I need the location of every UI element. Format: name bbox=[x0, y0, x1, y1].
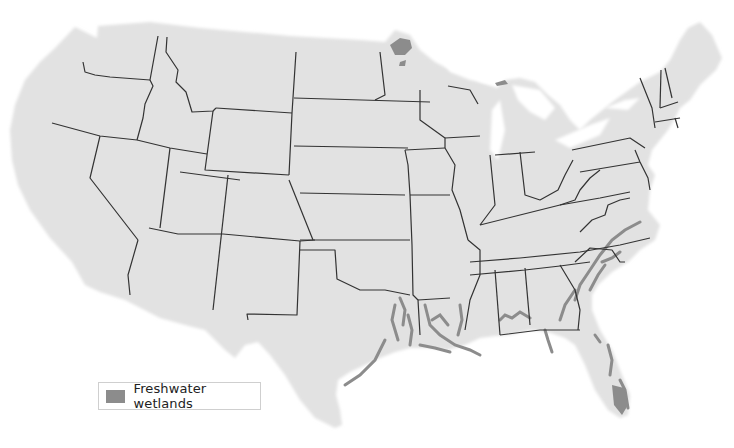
freshwater-wetlands-swatch bbox=[106, 390, 125, 403]
legend-label-freshwater-wetlands: Freshwater wetlands bbox=[134, 381, 260, 411]
us-wetlands-map bbox=[0, 0, 734, 448]
map-legend: Freshwater wetlands bbox=[98, 382, 261, 410]
